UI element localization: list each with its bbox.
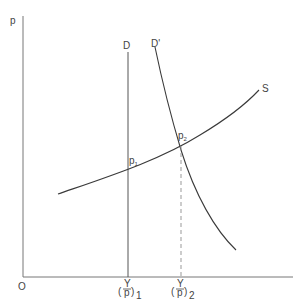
svg-text:): ) (184, 286, 187, 297)
point-p1-label: p1 (129, 155, 139, 167)
y-axis-label: p (10, 15, 16, 26)
point-p2-label: p2 (178, 130, 188, 142)
svg-text:(: ( (171, 286, 175, 297)
demand-curve-d-prime (155, 47, 236, 250)
origin-label: O (18, 281, 26, 292)
x-tick-1-label: ( Y p ) 1 (118, 278, 142, 301)
svg-text:): ) (131, 286, 134, 297)
x-tick-2-label: ( Y p ) 2 (171, 278, 195, 301)
svg-text:2: 2 (189, 290, 195, 301)
supply-demand-diagram: p O D D' S p1 p2 ( Y p ) 1 ( Y p ) 2 (0, 0, 301, 308)
demand-prime-label: D' (151, 38, 160, 49)
svg-text:p: p (124, 287, 130, 298)
demand-label: D (123, 40, 130, 51)
svg-text:(: ( (118, 286, 122, 297)
svg-text:1: 1 (136, 290, 142, 301)
supply-label: S (262, 83, 269, 94)
supply-curve (58, 90, 259, 194)
svg-text:p: p (177, 287, 183, 298)
